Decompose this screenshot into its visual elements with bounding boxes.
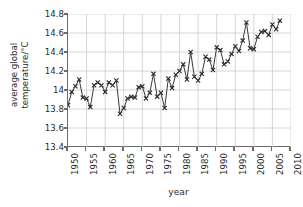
x-tick-label: 1980 [182, 153, 192, 175]
x-tick-mark [271, 147, 273, 151]
y-tick-label: 14.6 [36, 28, 64, 38]
plot-area [67, 14, 290, 147]
x-tick-label: 1960 [108, 153, 118, 175]
y-tick-label: 14.8 [36, 9, 64, 19]
x-tick-label: 1990 [219, 153, 229, 175]
y-axis-title-line1: average global [9, 43, 19, 107]
x-tick-mark [159, 147, 161, 151]
chart-figure: average global temperature/°C 13.413.613… [0, 0, 303, 207]
x-tick-label: 1950 [70, 153, 80, 175]
x-tick-mark [141, 147, 143, 151]
y-tick-label: 14.4 [36, 47, 64, 57]
y-tick-label: 13.4 [36, 142, 64, 152]
x-axis-title: year [67, 186, 290, 197]
x-tick-mark [66, 147, 68, 151]
y-axis-title-line2: temperature/°C [20, 41, 31, 108]
x-tick-label: 1975 [163, 153, 173, 175]
x-tick-mark [196, 147, 198, 151]
x-tick-mark [103, 147, 105, 151]
x-tick-mark [252, 147, 254, 151]
x-tick-label: 1965 [126, 153, 136, 175]
x-tick-mark [178, 147, 180, 151]
data-line [68, 21, 280, 114]
x-tick-label: 1970 [145, 153, 155, 175]
x-tick-label: 1995 [238, 153, 248, 175]
y-axis-title: average global temperature/°C [9, 41, 31, 108]
x-tick-label: 2010 [293, 153, 303, 175]
x-tick-mark [85, 147, 87, 151]
x-tick-mark [215, 147, 217, 151]
x-tick-mark [122, 147, 124, 151]
y-axis-tick-labels: 13.413.613.81414.214.414.614.8 [34, 0, 64, 207]
x-tick-mark [233, 147, 235, 151]
x-tick-mark [289, 147, 291, 151]
x-tick-label: 2000 [256, 153, 266, 175]
gridlines [68, 14, 291, 147]
x-tick-label: 1985 [200, 153, 210, 175]
series-canvas [68, 14, 291, 147]
y-tick-label: 13.6 [36, 123, 64, 133]
x-tick-label: 1955 [89, 153, 99, 175]
y-tick-label: 13.8 [36, 104, 64, 114]
x-axis-tick-labels: 1950195519601965197019751980198519901995… [67, 147, 290, 187]
x-tick-label: 2005 [275, 153, 285, 175]
y-tick-label: 14.2 [36, 66, 64, 76]
y-tick-label: 14 [36, 85, 64, 95]
